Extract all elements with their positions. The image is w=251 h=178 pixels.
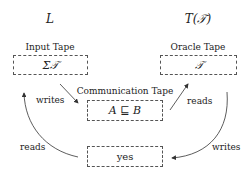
communication-tape-content: A ⊑ B <box>109 104 141 117</box>
edge-label-reads-right: reads <box>187 96 212 106</box>
oracle-tape-box: 𝒯 <box>160 55 237 75</box>
left-party-title: L <box>46 12 54 26</box>
oracle-tape-content: 𝒯 <box>195 59 203 72</box>
edge-label-reads-left: reads <box>20 142 45 152</box>
communication-tape-box: A ⊑ B <box>87 100 163 121</box>
output-tape-content: yes <box>117 151 134 162</box>
right-party-title: T(𝒯) <box>185 12 211 26</box>
edge-label-writes-right: writes <box>212 142 240 152</box>
edge-label-writes-left: writes <box>36 95 64 105</box>
input-tape-label: Input Tape <box>25 42 74 52</box>
oracle-tape-label: Oracle Tape <box>171 42 226 52</box>
input-tape-content: Σ𝒯 <box>43 59 59 72</box>
input-tape-box: Σ𝒯 <box>13 55 88 75</box>
diagram-canvas: L T(𝒯) Input Tape Σ𝒯 Oracle Tape 𝒯 Commu… <box>0 0 251 178</box>
communication-tape-label: Communication Tape <box>77 86 174 96</box>
output-tape-box: yes <box>87 146 163 167</box>
